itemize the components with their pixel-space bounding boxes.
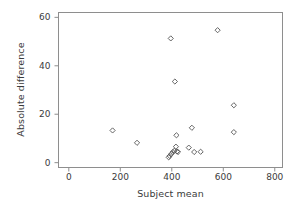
y-tick-label: 40	[27, 61, 51, 71]
data-point-marker	[172, 79, 177, 84]
x-tick-label: 600	[215, 172, 232, 182]
x-axis-label: Subject mean	[58, 188, 283, 199]
data-point-marker	[134, 140, 139, 145]
plot-canvas	[0, 0, 299, 208]
data-point-marker	[174, 133, 179, 138]
y-tick-label: 60	[27, 12, 51, 22]
x-tick-label: 800	[266, 172, 283, 182]
data-point-marker	[186, 145, 191, 150]
y-axis-ticks	[55, 17, 59, 162]
x-axis-ticks	[69, 168, 275, 172]
data-point-marker	[231, 130, 236, 135]
y-axis-label: Absolute difference	[15, 30, 26, 150]
x-tick-label: 400	[163, 172, 180, 182]
data-point-marker	[192, 149, 197, 154]
y-tick-label: 0	[27, 158, 51, 168]
data-point-marker	[231, 103, 236, 108]
data-point-marker	[189, 125, 194, 130]
data-point-marker	[215, 28, 220, 33]
y-tick-label: 20	[27, 109, 51, 119]
x-tick-label: 200	[112, 172, 129, 182]
data-point-marker	[168, 36, 173, 41]
x-tick-label: 0	[66, 172, 72, 182]
data-point-marker	[110, 128, 115, 133]
data-points-group	[110, 28, 236, 160]
data-point-marker	[198, 149, 203, 154]
scatter-plot-figure: Absolute difference Subject mean 0200400…	[0, 0, 299, 208]
